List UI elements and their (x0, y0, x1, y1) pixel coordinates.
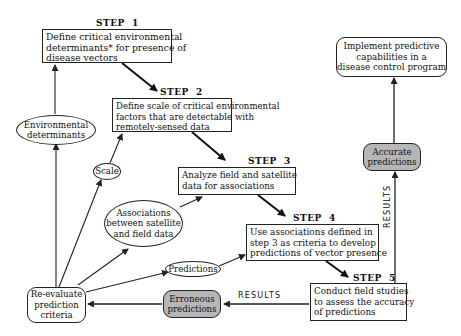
step-4-text-line: predictions of vector presence (250, 248, 375, 259)
implement-text-line: capabilities in a (356, 52, 427, 62)
associations-ellipse: Associations between satellite and field… (104, 200, 183, 247)
accurate-predictions-box: Accurate predictions (363, 143, 421, 171)
ellipse-text-line: determinants (27, 130, 85, 140)
step-5-text-line: to assess the accuracy (314, 297, 403, 308)
results-label-horizontal: RESULTS (238, 291, 281, 300)
accurate-text-line: Accurate (372, 147, 411, 157)
step-1-text-line: Define critical environmental (46, 32, 168, 43)
erroneous-text-line: predictions (167, 304, 216, 314)
step-4-box: Use associations defined in step 3 as cr… (246, 224, 379, 261)
step-4-text-line: step 3 as criteria to develop (250, 238, 375, 249)
implement-program-box: Implement predictive capabilities in a d… (336, 37, 447, 77)
predictions-ellipse: Predictions (165, 261, 221, 277)
environmental-determinants-ellipse: Environmental determinants (16, 115, 96, 145)
accurate-text-line: predictions (367, 157, 416, 167)
reevaluate-text-line: criteria (40, 310, 72, 320)
ellipse-text-line: Environmental (24, 120, 88, 130)
step-2-box: Define scale of critical environmental f… (112, 98, 232, 132)
step-2-label: STEP 2 (160, 87, 203, 97)
reevaluate-text-line: prediction (34, 300, 79, 310)
erroneous-text-line: Erroneous (169, 294, 214, 304)
step-5-text-line: Conduct field studies (314, 286, 403, 297)
scale-ellipse: Scale (93, 163, 121, 180)
step-1-text-line: disease vectors (46, 53, 168, 64)
step-3-label: STEP 3 (248, 156, 291, 166)
step-1-box: Define critical environmental determinan… (42, 29, 172, 63)
ellipse-text-line: Scale (95, 166, 119, 176)
step-5-text-line: of predictions (314, 307, 403, 318)
ellipse-text-line: between satellite (106, 218, 181, 228)
step-1-label: STEP 1 (96, 18, 139, 28)
step-4-text-line: Use associations defined in (250, 227, 375, 238)
reevaluate-criteria-box: Re-evaluate prediction criteria (27, 287, 86, 323)
step-2-text-line: factors that are detectable with (116, 112, 228, 123)
ellipse-text-line: Associations (116, 208, 170, 218)
step-3-text-line: Analyze field and satellite (182, 170, 292, 181)
step-5-box: Conduct field studies to assess the accu… (310, 283, 407, 321)
step-2-text-line: Define scale of critical environmental (116, 101, 228, 112)
implement-text-line: disease control program (337, 62, 446, 72)
step-3-text-line: data for associations (182, 181, 292, 192)
step-2-text-line: remotely-sensed data (116, 122, 228, 133)
step-3-box: Analyze field and satellite data for ass… (178, 167, 296, 195)
erroneous-predictions-box: Erroneous predictions (163, 290, 221, 318)
implement-text-line: Implement predictive (344, 41, 440, 51)
results-label-vertical: RESULTS (383, 185, 392, 228)
ellipse-text-line: and field data (114, 229, 174, 239)
ellipse-text-line: Predictions (168, 264, 217, 274)
step-4-label: STEP 4 (293, 213, 336, 223)
reevaluate-text-line: Re-evaluate (31, 289, 82, 299)
step-5-label: STEP 5 (353, 273, 396, 283)
